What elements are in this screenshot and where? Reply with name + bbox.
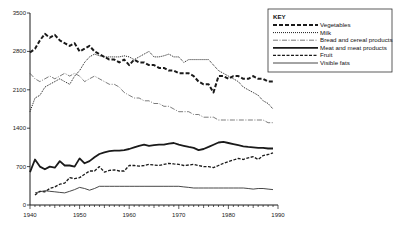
x-tick-label: 1970 xyxy=(172,212,186,218)
series-vegetables xyxy=(30,34,273,93)
series-bread-and-cereal-products xyxy=(30,73,273,122)
legend-label: Fruit xyxy=(320,51,333,58)
series-milk xyxy=(30,51,273,111)
legend-label: Meat and meat products xyxy=(320,44,387,51)
y-tick-label: 0 xyxy=(23,202,27,208)
legend-label: Visible fats xyxy=(320,59,350,66)
legend-label: Vegetables xyxy=(320,21,351,28)
line-chart: 0700140021002800350019401950196019701980… xyxy=(0,0,396,225)
y-tick-label: 2800 xyxy=(13,48,27,54)
y-tick-label: 1400 xyxy=(13,125,27,131)
x-tick-label: 1980 xyxy=(222,212,236,218)
x-tick-label: 1940 xyxy=(23,212,37,218)
legend-key: KEY VegetablesMilkBread and cereal produ… xyxy=(268,9,393,72)
y-tick-label: 2100 xyxy=(13,87,27,93)
series-visible-fats xyxy=(35,186,273,193)
x-tick-label: 1960 xyxy=(123,212,137,218)
series-fruit xyxy=(35,153,273,195)
series-lines xyxy=(30,34,273,195)
legend-label: Milk xyxy=(320,29,332,36)
y-tick-label: 3500 xyxy=(13,10,27,16)
axes: 0700140021002800350019401950196019701980… xyxy=(13,10,286,218)
y-tick-label: 700 xyxy=(16,164,27,170)
x-tick-label: 1990 xyxy=(271,212,285,218)
legend-title: KEY xyxy=(273,13,287,20)
legend-label: Bread and cereal products xyxy=(320,36,393,43)
series-meat-and-meat-products xyxy=(30,142,273,172)
x-tick-label: 1950 xyxy=(73,212,87,218)
